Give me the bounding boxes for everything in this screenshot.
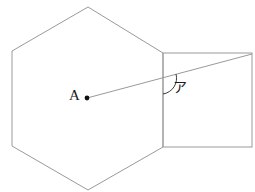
- center-point-a-dot: [85, 96, 90, 101]
- square-shape: [163, 53, 252, 147]
- point-a-label: A: [69, 88, 80, 103]
- angle-label: ア: [173, 80, 187, 94]
- geometry-figure: A ア: [0, 0, 255, 192]
- figure-canvas: [0, 0, 255, 192]
